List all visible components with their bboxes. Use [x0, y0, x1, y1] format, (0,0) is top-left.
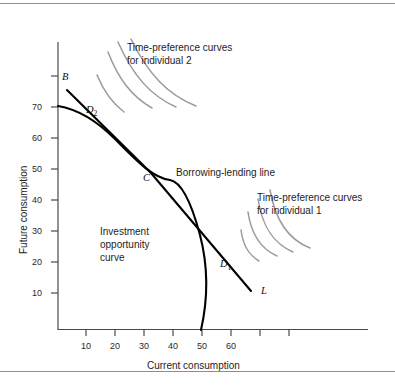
y-axis-title: Future consumption [18, 166, 29, 254]
x-tick-label-20: 20 [110, 341, 120, 351]
point-label-B: B [62, 71, 68, 82]
point-label-D1-text: D [220, 258, 228, 269]
y-tick-label-20: 20 [32, 257, 42, 267]
y-tick-label-10: 10 [32, 288, 42, 298]
annotation-time-preference-individual-1: Time-preference curves for individual 1 [257, 191, 362, 217]
x-tick-label-50: 50 [197, 341, 207, 351]
point-label-D2-text: D [86, 104, 94, 115]
point-label-D1-sub: 1 [228, 263, 232, 272]
investment-opportunity-curve [58, 106, 206, 330]
y-tick-label-60: 60 [32, 133, 42, 143]
y-axis-ticks [51, 76, 58, 293]
point-label-C: C [143, 172, 150, 183]
x-tick-label-40: 40 [168, 341, 178, 351]
x-axis-title: Current consumption [147, 360, 240, 371]
y-tick-label-50: 50 [32, 164, 42, 174]
point-label-L-text: L [261, 285, 267, 296]
point-label-B-text: B [62, 71, 68, 82]
point-label-C-text: C [143, 172, 150, 183]
point-label-L: L [261, 285, 267, 296]
figure-container: 70 60 50 40 30 20 10 10 20 30 40 50 60 C… [0, 0, 395, 387]
y-tick-label-70: 70 [32, 102, 42, 112]
y-tick-label-30: 30 [32, 226, 42, 236]
annotation-investment-opportunity-curve: Investment opportunity curve [100, 225, 149, 264]
annotation-borrowing-lending-line: Borrowing-lending line [176, 166, 275, 179]
point-label-D2-sub: 2 [94, 109, 98, 118]
x-tick-label-60: 60 [226, 341, 236, 351]
x-tick-label-30: 30 [139, 341, 149, 351]
point-label-D2: D2 [86, 104, 97, 118]
y-tick-label-40: 40 [32, 195, 42, 205]
point-label-D1: D1 [220, 258, 231, 272]
x-tick-label-10: 10 [81, 341, 91, 351]
annotation-time-preference-individual-2: Time-preference curves for individual 2 [127, 41, 232, 67]
